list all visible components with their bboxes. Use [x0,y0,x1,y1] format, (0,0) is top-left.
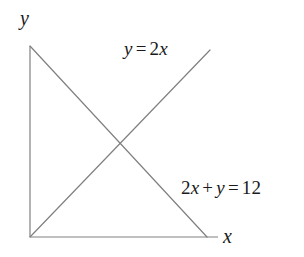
line-2x-plus-y-equals-12 [30,46,207,237]
x-axis-label: x [223,226,232,246]
graph-figure: y x y=2x 2x+y=12 [0,0,304,257]
eqn2-rhs: 12 [242,177,261,198]
line-label-y-equals-2x: y=2x [124,39,168,58]
eqn1-lhs: y [124,38,133,59]
eqn2-equals: = [225,177,242,198]
eqn1-variable: x [159,38,168,59]
eqn2-coefficient: 2 [181,177,191,198]
eqn1-equals: = [133,38,150,59]
y-axis-label: y [20,8,29,28]
line-label-2x-plus-y-equals-12: 2x+y=12 [181,178,261,197]
eqn2-variable-y: y [216,177,225,198]
eqn2-plus: + [199,177,216,198]
eqn1-coefficient: 2 [150,38,160,59]
